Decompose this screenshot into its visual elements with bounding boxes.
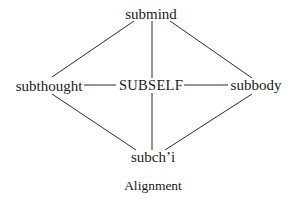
node-subthought: subthought [16,79,83,94]
diagram-edges [0,0,289,199]
edge-submind-subbody [170,21,252,78]
node-subbody: subbody [231,78,282,93]
node-submind: submind [125,7,177,22]
node-subself: SUBSELF [119,78,183,93]
edge-subthought-subchi [52,94,136,150]
edge-subbody-subchi [165,94,252,150]
node-subchi: subch’i [131,150,175,165]
edge-submind-subthought [52,21,134,77]
diagram-caption: Alignment [124,179,182,193]
